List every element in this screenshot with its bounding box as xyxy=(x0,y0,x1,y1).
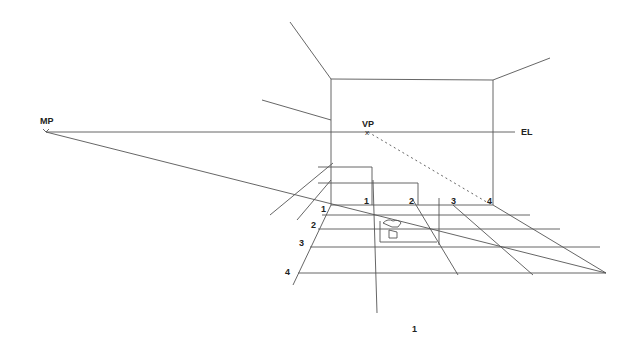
vp-mark: x xyxy=(365,128,369,137)
vp-label: VP xyxy=(362,119,374,129)
floor-right-edge xyxy=(493,205,606,273)
figure-number: 1 xyxy=(412,324,417,334)
top-measure-2: 2 xyxy=(409,196,414,206)
ceiling-right-edge xyxy=(493,58,550,80)
ceiling-left-edge xyxy=(290,22,331,79)
el-label: EL xyxy=(521,127,533,137)
top-measure-4: 4 xyxy=(487,196,492,206)
dotted-diagonal xyxy=(368,132,490,204)
top-measure-1: 1 xyxy=(364,196,369,206)
back-wall-top xyxy=(331,79,493,80)
perspective-diagram: x MP VP EL 1 2 3 4 1 2 3 4 1 xyxy=(0,0,637,348)
side-measure-4: 4 xyxy=(285,267,290,277)
left-guide-b xyxy=(297,180,331,220)
side-measure-3: 3 xyxy=(299,238,304,248)
side-measure-1: 1 xyxy=(321,204,326,214)
measuring-line xyxy=(46,132,606,273)
floor-line-2 xyxy=(413,200,458,275)
top-measure-3: 3 xyxy=(451,196,456,206)
floor-line-3 xyxy=(453,205,533,275)
side-measure-2: 2 xyxy=(311,220,316,230)
left-wall-guide xyxy=(262,100,331,120)
mp-label: MP xyxy=(40,116,54,126)
vertical-1 xyxy=(373,180,377,313)
